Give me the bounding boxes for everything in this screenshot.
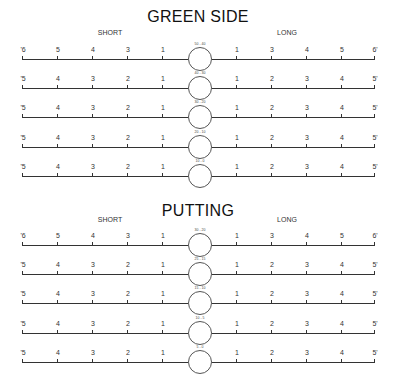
tick-mark <box>22 173 23 177</box>
tick-mark <box>236 144 237 148</box>
tick-mark <box>306 330 307 334</box>
long-tick-label: 6' <box>372 232 377 239</box>
tick-mark <box>22 56 23 60</box>
tick-mark <box>271 359 272 363</box>
tick-mark <box>374 85 375 89</box>
tick-mark <box>236 173 237 177</box>
long-tick-label: 2 <box>270 349 274 356</box>
long-tick-label: 5' <box>372 134 377 141</box>
short-tick-label: 1 <box>161 75 165 82</box>
tick-mark <box>306 173 307 177</box>
tick-mark <box>162 85 163 89</box>
short-tick-label: 3 <box>91 320 95 327</box>
tick-mark <box>92 144 93 148</box>
tick-mark <box>271 271 272 275</box>
long-tick-label: 2 <box>270 261 274 268</box>
long-tick-label: 4 <box>340 134 344 141</box>
tick-mark <box>162 56 163 60</box>
long-tick-label: 4 <box>340 104 344 111</box>
long-tick-label: 1 <box>235 320 239 327</box>
tick-mark <box>341 359 342 363</box>
long-tick-label: 3 <box>270 232 274 239</box>
short-tick-label: '6 <box>20 46 25 53</box>
tick-mark <box>127 85 128 89</box>
tick-mark <box>236 300 237 304</box>
putting-section: PUTTINGSHORTLONG'6543113456'30 - 20'5432… <box>0 187 396 373</box>
tick-mark <box>92 85 93 89</box>
section-title: GREEN SIDE <box>0 8 396 26</box>
tick-mark <box>127 56 128 60</box>
tick-mark <box>127 300 128 304</box>
long-tick-label: 6' <box>372 46 377 53</box>
short-tick-label: 1 <box>161 232 165 239</box>
short-tick-label: 1 <box>161 104 165 111</box>
tick-mark <box>341 242 342 246</box>
tick-mark <box>341 330 342 334</box>
distance-row: '5432112345'15 - 10 <box>0 281 396 311</box>
tick-mark <box>271 56 272 60</box>
tick-mark <box>374 330 375 334</box>
tick-mark <box>306 144 307 148</box>
long-tick-label: 3 <box>305 290 309 297</box>
tick-mark <box>22 330 23 334</box>
long-tick-label: 1 <box>235 290 239 297</box>
distance-range-label: 10 - 0 <box>185 159 215 163</box>
short-tick-label: 3 <box>91 290 95 297</box>
tick-mark <box>127 271 128 275</box>
short-tick-label: 4 <box>56 290 60 297</box>
tick-mark <box>341 144 342 148</box>
tick-mark <box>236 114 237 118</box>
short-tick-label: 1 <box>161 261 165 268</box>
short-tick-label: 3 <box>91 75 95 82</box>
short-tick-label: 2 <box>126 349 130 356</box>
long-tick-label: 2 <box>270 134 274 141</box>
tick-mark <box>162 359 163 363</box>
tick-mark <box>341 173 342 177</box>
short-tick-label: 3 <box>91 104 95 111</box>
short-tick-label: 4 <box>56 261 60 268</box>
tick-mark <box>22 359 23 363</box>
tick-mark <box>57 114 58 118</box>
short-tick-label: 4 <box>56 134 60 141</box>
tick-mark <box>271 242 272 246</box>
tick-mark <box>341 300 342 304</box>
distance-range-label: 30 - 20 <box>185 228 215 232</box>
short-tick-label: '5 <box>20 349 25 356</box>
long-tick-label: 3 <box>305 163 309 170</box>
tick-mark <box>127 330 128 334</box>
distance-row: '5432112345'10 - 0 <box>0 154 396 184</box>
distance-range-label: 30 - 20 <box>185 100 215 104</box>
tick-mark <box>92 300 93 304</box>
tick-mark <box>236 85 237 89</box>
short-tick-label: 1 <box>161 290 165 297</box>
long-tick-label: 3 <box>305 320 309 327</box>
long-tick-label: 4 <box>305 46 309 53</box>
distance-row: '6543113456'50 - 40 <box>0 37 396 67</box>
tick-mark <box>271 144 272 148</box>
tick-mark <box>374 114 375 118</box>
tick-mark <box>236 242 237 246</box>
short-tick-label: 1 <box>161 134 165 141</box>
short-tick-label: '5 <box>20 104 25 111</box>
short-tick-label: '5 <box>20 134 25 141</box>
tick-mark <box>306 300 307 304</box>
tick-mark <box>236 330 237 334</box>
long-label: LONG <box>277 216 297 223</box>
tick-mark <box>271 300 272 304</box>
short-tick-label: 5 <box>56 46 60 53</box>
long-tick-label: 4 <box>305 232 309 239</box>
short-label: SHORT <box>98 216 122 223</box>
tick-mark <box>271 330 272 334</box>
tick-mark <box>127 242 128 246</box>
long-tick-label: 1 <box>235 104 239 111</box>
tick-mark <box>341 271 342 275</box>
tick-mark <box>306 114 307 118</box>
short-tick-label: 4 <box>56 104 60 111</box>
long-tick-label: 4 <box>340 290 344 297</box>
long-tick-label: 5 <box>340 46 344 53</box>
short-tick-label: 3 <box>126 46 130 53</box>
long-tick-label: 1 <box>235 349 239 356</box>
long-tick-label: 5' <box>372 261 377 268</box>
short-tick-label: 5 <box>56 232 60 239</box>
long-tick-label: 5' <box>372 75 377 82</box>
